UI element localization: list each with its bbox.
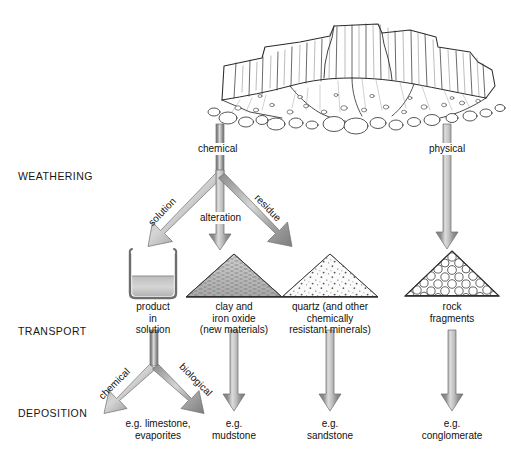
stage-label-transport: TRANSPORT: [18, 325, 87, 337]
stage-label-weathering: WEATHERING: [18, 170, 93, 182]
deposit-label-conglomerate: e.g. conglomerate: [402, 418, 502, 441]
stage-label-deposition: DEPOSITION: [18, 407, 87, 419]
pebble-pile-icon: [405, 251, 499, 301]
arrow-transport-quartz: [319, 330, 341, 411]
arrow-transport-clay: [223, 330, 245, 411]
deposit-label-mudstone: e.g. mudstone: [194, 418, 274, 441]
product-label-rock-fragments: rock fragments: [412, 301, 492, 324]
beaker-icon: [130, 249, 177, 298]
product-label-clay: clay and iron oxide (new materials): [184, 301, 284, 336]
arrow-transport-rock-fragments: [441, 330, 463, 411]
diagram-graphics: [0, 0, 511, 467]
product-label-quartz: quartz (and other chemically resistant m…: [272, 301, 388, 336]
arrow-label-physical: physical: [427, 143, 467, 155]
product-label-solution: product in solution: [113, 301, 193, 336]
arrow-label-alteration: alteration: [198, 212, 243, 224]
quartz-pile-icon: [282, 254, 378, 298]
clay-pile-icon: [186, 254, 282, 298]
arrow-label-chemical: chemical: [196, 143, 239, 155]
deposit-label-sandstone: e.g. sandstone: [290, 418, 370, 441]
diagram-canvas: WEATHERING TRANSPORT DEPOSITION chemical…: [0, 0, 511, 467]
rock-outcrop-illustration: [208, 24, 505, 134]
